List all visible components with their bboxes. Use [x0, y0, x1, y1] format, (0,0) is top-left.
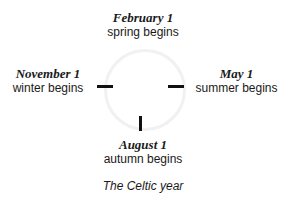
marker-label: winter begins	[6, 81, 90, 95]
marker-november: November 1 winter begins	[6, 67, 90, 95]
marker-may: May 1 summer begins	[189, 67, 284, 95]
tick-bottom	[139, 116, 142, 131]
diagram-caption: The Celtic year	[0, 179, 286, 193]
marker-date: November 1	[6, 67, 90, 81]
marker-date: February 1	[93, 11, 193, 25]
tick-left	[97, 85, 113, 88]
tick-right	[168, 85, 184, 88]
marker-february: February 1 spring begins	[93, 11, 193, 39]
marker-label: autumn begins	[93, 152, 193, 166]
marker-date: August 1	[93, 138, 193, 152]
marker-label: spring begins	[93, 25, 193, 39]
marker-date: May 1	[189, 67, 284, 81]
marker-august: August 1 autumn begins	[93, 138, 193, 166]
marker-label: summer begins	[189, 81, 284, 95]
year-circle	[104, 49, 186, 131]
